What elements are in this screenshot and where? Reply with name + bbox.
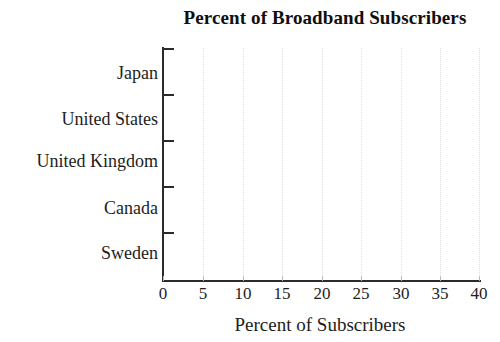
x-tick-25 <box>361 276 362 281</box>
x-tick-20 <box>322 276 323 281</box>
y-axis-label-united-kingdom: United Kingdom <box>37 152 159 170</box>
x-tick-label-40: 40 <box>459 285 499 302</box>
plot-area <box>163 48 480 281</box>
y-tick-0 <box>163 48 174 50</box>
y-axis-label-sweden: Sweden <box>101 244 158 262</box>
x-tick-label-10: 10 <box>223 285 263 302</box>
y-tick-3 <box>163 186 174 188</box>
y-tick-4 <box>163 232 174 234</box>
x-tick-label-0: 0 <box>143 285 183 302</box>
y-tick-1 <box>163 94 174 96</box>
chart-title: Percent of Broadband Subscribers <box>160 7 490 29</box>
x-tick-label-15: 15 <box>262 285 302 302</box>
x-tick-label-20: 20 <box>302 285 342 302</box>
x-tick-label-25: 25 <box>341 285 381 302</box>
x-tick-35 <box>440 276 441 281</box>
x-axis-title: Percent of Subscribers <box>140 314 500 336</box>
y-axis-label-united-states: United States <box>62 110 159 128</box>
x-tick-label-5: 5 <box>183 285 223 302</box>
x-tick-5 <box>203 276 204 281</box>
chart-container: Percent of Broadband Subscribers Japan U… <box>0 0 500 342</box>
y-tick-2 <box>163 140 174 142</box>
x-tick-40 <box>479 276 480 281</box>
x-tick-30 <box>401 276 402 281</box>
x-tick-label-35: 35 <box>420 285 460 302</box>
x-tick-0 <box>163 276 164 281</box>
y-axis-line <box>162 47 164 282</box>
y-axis-label-japan: Japan <box>117 64 158 82</box>
y-axis-label-canada: Canada <box>104 199 158 217</box>
x-tick-label-30: 30 <box>381 285 421 302</box>
x-tick-10 <box>243 276 244 281</box>
x-tick-15 <box>282 276 283 281</box>
bars-layer <box>163 48 480 281</box>
